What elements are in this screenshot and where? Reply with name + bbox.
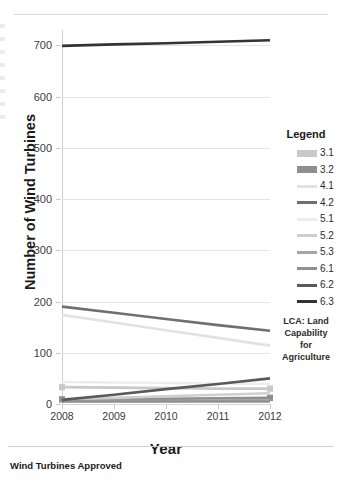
- legend-item-6.1[interactable]: 6.1: [274, 261, 338, 278]
- x-axis-tick-label: 2008: [50, 411, 73, 422]
- legend-swatch-icon: [297, 150, 317, 157]
- legend-item-label: 3.2: [320, 165, 338, 175]
- legend-item-3.1[interactable]: 3.1: [274, 145, 338, 162]
- legend-swatch-icon: [297, 251, 317, 254]
- y-axis-tick-label: 100: [34, 347, 52, 358]
- x-axis-tick: [270, 404, 271, 409]
- series-lines: [62, 30, 270, 404]
- legend-swatch-icon: [297, 300, 317, 303]
- x-axis-tick-label: 2010: [154, 411, 177, 422]
- y-axis-tick-label: 0: [46, 399, 52, 410]
- x-axis-tick-label: 2012: [258, 411, 281, 422]
- legend-swatch-icon: [297, 284, 317, 287]
- legend-item-6.2[interactable]: 6.2: [274, 277, 338, 294]
- legend-item-label: 4.2: [320, 198, 338, 208]
- y-axis-tick: [56, 97, 61, 98]
- legend: Legend 3.13.24.14.25.15.25.36.16.26.3 LC…: [274, 128, 338, 364]
- top-divider: [14, 14, 328, 15]
- legend-swatch-icon: [297, 166, 317, 173]
- legend-item-label: 5.3: [320, 247, 338, 257]
- legend-swatch-icon: [297, 234, 317, 237]
- legend-swatch-icon: [297, 201, 317, 204]
- series-marker-3.1: [59, 384, 65, 390]
- legend-item-4.2[interactable]: 4.2: [274, 195, 338, 212]
- legend-swatch-icon: [297, 185, 317, 188]
- y-axis-tick: [56, 404, 61, 405]
- chart-page: 0100200300400500600700 20082009201020112…: [0, 0, 342, 482]
- legend-item-6.3[interactable]: 6.3: [274, 294, 338, 311]
- legend-title: Legend: [274, 128, 338, 140]
- legend-item-label: 6.2: [320, 280, 338, 290]
- x-axis-tick: [166, 404, 167, 409]
- y-axis-title: Number of Wind Turbines: [22, 99, 38, 305]
- plot-area: 0100200300400500600700 20082009201020112…: [62, 30, 270, 404]
- y-axis-tick: [56, 302, 61, 303]
- legend-note-line: Agriculture: [274, 352, 338, 364]
- series-line-6.3: [62, 40, 270, 46]
- x-axis-tick: [114, 404, 115, 409]
- y-axis-tick-label: 700: [34, 40, 52, 51]
- y-axis-tick: [56, 250, 61, 251]
- legend-note-line: for: [274, 340, 338, 352]
- series-marker-3.1: [267, 385, 273, 391]
- y-axis-tick: [56, 148, 61, 149]
- y-axis-tick: [56, 199, 61, 200]
- legend-note-line: Capability: [274, 328, 338, 340]
- legend-item-label: 5.1: [320, 214, 338, 224]
- x-axis-title: Year: [62, 440, 270, 457]
- legend-item-label: 6.3: [320, 297, 338, 307]
- legend-item-label: 3.1: [320, 148, 338, 158]
- y-axis-tick: [56, 353, 61, 354]
- bottom-divider: [8, 446, 334, 447]
- legend-swatch-icon: [297, 267, 317, 270]
- legend-items: 3.13.24.14.25.15.25.36.16.26.3: [274, 145, 338, 310]
- legend-note-line: LCA: Land: [274, 316, 338, 328]
- legend-item-5.2[interactable]: 5.2: [274, 228, 338, 245]
- legend-item-label: 4.1: [320, 181, 338, 191]
- y-axis-tick: [56, 45, 61, 46]
- x-axis-tick: [218, 404, 219, 409]
- legend-item-label: 6.1: [320, 264, 338, 274]
- legend-item-5.1[interactable]: 5.1: [274, 211, 338, 228]
- legend-item-5.3[interactable]: 5.3: [274, 244, 338, 261]
- x-axis-tick-label: 2009: [102, 411, 125, 422]
- legend-swatch-icon: [297, 218, 317, 221]
- legend-item-4.1[interactable]: 4.1: [274, 178, 338, 195]
- legend-note: LCA: LandCapabilityforAgriculture: [274, 316, 338, 364]
- figure-caption: Wind Turbines Approved: [10, 460, 122, 471]
- x-axis-tick-label: 2011: [207, 411, 230, 422]
- x-axis-tick: [62, 404, 63, 409]
- legend-item-label: 5.2: [320, 231, 338, 241]
- legend-item-3.2[interactable]: 3.2: [274, 162, 338, 179]
